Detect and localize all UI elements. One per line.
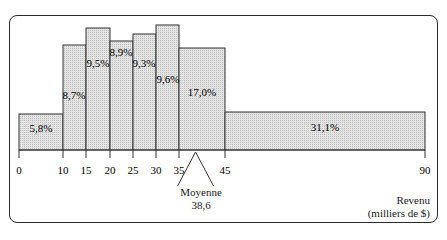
x-axis-title-line2: (milliers de $) — [340, 207, 430, 220]
x-axis-title-line1: Revenu — [340, 194, 430, 207]
bar-value-label: 5,8% — [30, 122, 53, 134]
bar-value-label: 8,9% — [110, 46, 133, 58]
mean-label: Moyenne — [170, 186, 232, 199]
x-tick-label: 20 — [105, 164, 117, 176]
mean-annotation: Moyenne 38,6 — [170, 186, 232, 212]
bar-value-label: 31,1% — [311, 121, 339, 133]
x-tick-label: 25 — [128, 164, 140, 176]
bar-value-label: 9,5% — [87, 57, 110, 69]
histogram-bar — [156, 25, 179, 150]
histogram-bar — [179, 48, 225, 150]
x-tick-label: 10 — [58, 164, 70, 176]
x-tick-label: 15 — [81, 164, 93, 176]
bar-value-label: 9,6% — [157, 73, 180, 85]
x-tick-label: 45 — [220, 164, 232, 176]
histogram-bar — [133, 34, 156, 150]
histogram-bar — [86, 28, 110, 150]
x-axis-title: Revenu (milliers de $) — [340, 194, 430, 220]
x-tick-label: 30 — [151, 164, 163, 176]
bar-value-label: 8,7% — [63, 89, 86, 101]
x-tick-label: 90 — [420, 164, 432, 176]
bar-value-label: 17,0% — [188, 86, 216, 98]
mean-value: 38,6 — [170, 199, 232, 212]
x-tick-label: 0 — [16, 164, 22, 176]
bar-value-label: 9,3% — [133, 57, 156, 69]
